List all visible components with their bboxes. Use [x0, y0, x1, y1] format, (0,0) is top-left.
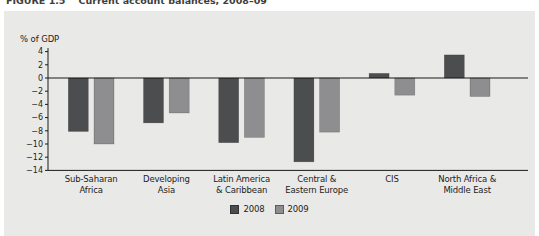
- bar-2009-0: [94, 78, 114, 144]
- x-category-label: Central &: [297, 174, 336, 184]
- figure-title: FIGURE 1.5Current account balances, 2008…: [6, 0, 536, 7]
- y-tick-label: 0: [38, 74, 43, 83]
- legend-item-2008: 2008: [230, 204, 264, 214]
- x-category-label: Latin America: [213, 174, 270, 184]
- bar-2009-3: [320, 78, 340, 132]
- x-category-label: Eastern Europe: [285, 185, 348, 195]
- bar-2008-4: [369, 73, 389, 78]
- legend-label-2008: 2008: [243, 204, 264, 214]
- bar-2009-4: [395, 78, 415, 95]
- bar-2009-2: [244, 78, 264, 137]
- x-category-label: Middle East: [443, 185, 491, 195]
- figure-title-text: FIGURE 1.5Current account balances, 2008…: [6, 0, 536, 6]
- y-tick-label: −2: [31, 87, 43, 96]
- legend-label-2009: 2009: [288, 204, 309, 214]
- plot-area: 420−2−4−6−8−10−12−14Sub-SaharanAfricaDev…: [26, 47, 528, 195]
- figure-page: { "title": { "figure_label": "FIGURE 1.5…: [0, 0, 539, 236]
- bar-2008-0: [68, 78, 88, 131]
- figure-number-label: FIGURE 1.5: [6, 0, 65, 6]
- x-category-label: Developing: [143, 174, 190, 184]
- x-category-label: & Caribbean: [216, 185, 267, 195]
- x-category-label: North Africa &: [438, 174, 496, 184]
- bar-2008-1: [144, 78, 164, 123]
- y-tick-label: −6: [31, 113, 43, 122]
- bar-2008-3: [294, 78, 314, 162]
- bar-2009-5: [470, 78, 490, 96]
- chart-legend: 2008 2009: [4, 203, 535, 215]
- chart-panel: % of GDP 420−2−4−6−8−10−12−14Sub-Saharan…: [4, 11, 535, 236]
- y-tick-label: −14: [26, 166, 43, 175]
- y-tick-label: 2: [38, 61, 43, 70]
- legend-swatch-2008: [230, 205, 239, 214]
- x-category-label: Sub-Saharan: [65, 174, 118, 184]
- x-category-label: Africa: [79, 185, 102, 195]
- y-axis-title: % of GDP: [20, 34, 59, 44]
- y-tick-label: −12: [26, 153, 43, 162]
- legend-item-2009: 2009: [275, 204, 309, 214]
- y-tick-label: −10: [26, 140, 43, 149]
- x-category-label: Asia: [158, 185, 175, 195]
- figure-caption: Current account balances, 2008–09: [78, 0, 266, 6]
- bar-2009-1: [169, 78, 189, 113]
- y-tick-label: −8: [31, 127, 43, 136]
- bar-2008-5: [444, 55, 464, 78]
- x-category-label: CIS: [385, 174, 398, 184]
- bar-2008-2: [219, 78, 239, 143]
- y-tick-label: 4: [38, 47, 43, 56]
- y-tick-label: −4: [31, 100, 43, 109]
- legend-swatch-2009: [275, 205, 284, 214]
